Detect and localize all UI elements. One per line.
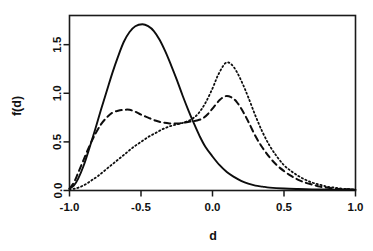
x-tick-label: 0.5	[276, 201, 293, 213]
x-tick-label: -1.0	[60, 201, 80, 213]
x-tick-label: -0.5	[131, 201, 151, 213]
y-tick-label: 0.0	[52, 183, 64, 199]
y-tick-label: 1.0	[52, 85, 64, 101]
x-tick-label: 1.0	[348, 201, 364, 213]
y-tick-label: 1.5	[52, 36, 64, 53]
x-axis-title: d	[209, 229, 217, 243]
y-axis-title: f(d)	[10, 96, 24, 116]
density-plot-figure: -1.0-0.50.00.51.0 0.00.51.01.5 d f(d)	[0, 0, 373, 251]
x-tick-label: 0.0	[205, 201, 221, 213]
y-tick-label: 0.5	[52, 133, 64, 150]
